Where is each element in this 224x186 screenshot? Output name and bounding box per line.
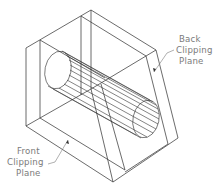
- back-label-line3: Plane: [179, 56, 204, 66]
- front-label-line3: Plane: [16, 168, 41, 178]
- back-clipping-plane-callout: Back Clipping Plane: [153, 34, 213, 72]
- front-label-line1: Front: [17, 146, 40, 156]
- front-clipping-plane-callout: Front Clipping Plane: [7, 140, 69, 178]
- clipping-planes-diagram: Back Clipping Plane Front Clipping Plane: [0, 0, 224, 186]
- back-label-line1: Back: [179, 34, 201, 44]
- back-label-line2: Clipping: [176, 45, 213, 55]
- front-label-line2: Clipping: [7, 157, 44, 167]
- cylinder: [41, 49, 162, 141]
- view-volume-box: [26, 10, 178, 182]
